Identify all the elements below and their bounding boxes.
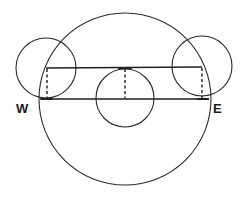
diagram-canvas (0, 0, 240, 200)
west-label: W (16, 102, 28, 115)
east-label: E (213, 102, 222, 115)
